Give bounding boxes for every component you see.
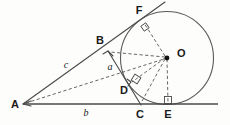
dashed-O-to-B — [110, 52, 165, 57]
side-label-b: b — [84, 107, 89, 118]
arrow-marks — [23, 51, 131, 106]
geometry-canvas: A B C D E F O a b c — [0, 0, 230, 125]
side-label-c: c — [64, 59, 69, 70]
dashed-O-to-D — [132, 58, 165, 82]
tangent-ray-AF — [23, 2, 165, 104]
side-label-a: a — [108, 61, 113, 72]
point-label-A: A — [11, 98, 19, 110]
arrowhead-at-B — [103, 51, 113, 56]
point-label-E: E — [164, 108, 171, 120]
point-label-O: O — [177, 47, 186, 59]
circle-center-dot — [165, 56, 170, 61]
point-label-D: D — [120, 84, 128, 96]
geometry-diagram: A B C D E F O a b c — [0, 0, 230, 125]
point-label-F: F — [136, 4, 143, 16]
dashed-O-to-F — [144, 23, 165, 56]
point-label-B: B — [96, 34, 104, 46]
segment-BC — [108, 51, 141, 105]
point-label-C: C — [136, 108, 144, 120]
dashed-A-to-O — [26, 59, 164, 103]
